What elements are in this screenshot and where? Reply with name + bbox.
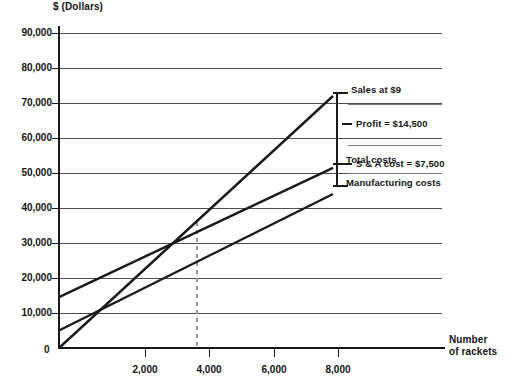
x-tick-label-8000: 8,000 (308, 364, 368, 375)
y-tick-label-80000: 80,000 (0, 62, 52, 73)
chart-canvas (0, 0, 508, 385)
series-line-manufacturing (59, 194, 333, 331)
y-tick-label-0: 0 (44, 344, 50, 355)
x-tick-label-2000: 2,000 (115, 364, 175, 375)
y-tick-label-20000: 20,000 (0, 272, 52, 283)
series-label-sales: Sales at $9 (351, 84, 401, 95)
breakeven-chart: $ (Dollars) 90,000 80,000 70,000 60,000 … (0, 0, 508, 385)
y-axis-ticks (52, 33, 59, 313)
y-tick-label-10000: 10,000 (0, 307, 52, 318)
y-tick-label-70000: 70,000 (0, 97, 52, 108)
x-tick-label-4000: 4,000 (179, 364, 239, 375)
annotation-label-profit: Profit = $14,500 (356, 118, 428, 129)
x-axis-title-line1: Number (449, 334, 497, 346)
x-tick-label-6000: 6,000 (244, 364, 304, 375)
y-tick-label-40000: 40,000 (0, 202, 52, 213)
x-axis-ticks (145, 348, 338, 357)
x-axis-title: Number of rackets (449, 334, 497, 358)
y-tick-label-60000: 60,000 (0, 132, 52, 143)
y-axis-title: $ (Dollars) (53, 1, 103, 12)
y-tick-label-50000: 50,000 (0, 167, 52, 178)
legend-bracket (333, 93, 348, 186)
x-axis-title-line2: of rackets (449, 346, 497, 358)
series-label-manufacturing: Manufacturing costs (346, 177, 441, 188)
series-lines (59, 96, 333, 348)
y-tick-label-90000: 90,000 (0, 27, 52, 38)
y-tick-label-30000: 30,000 (0, 237, 52, 248)
annotation-label-sa-cost: S & A cost = $7,500 (356, 158, 445, 169)
